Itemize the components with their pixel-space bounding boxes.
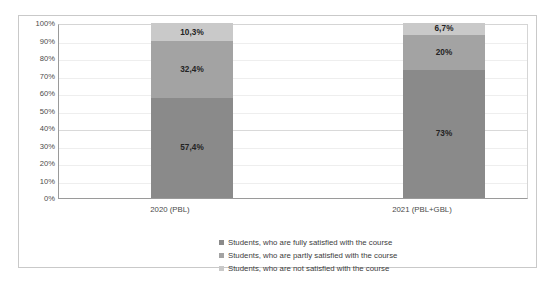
y-tick-label: 40%	[21, 125, 55, 133]
legend-item-fully-satisfied[interactable]: Students, who are fully satisfied with t…	[219, 236, 479, 249]
chart-legend: Students, who are fully satisfied with t…	[219, 236, 479, 275]
y-tick-label: 80%	[21, 55, 55, 63]
y-tick-label: 90%	[21, 38, 55, 46]
chart-frame: 100% 90% 80% 70% 60% 50% 40% 30% 20% 10%…	[18, 15, 537, 268]
y-tick-label: 30%	[21, 143, 55, 151]
x-axis-category-2020: 2020 (PBL)	[110, 205, 230, 214]
legend-swatch-icon	[219, 266, 224, 271]
bar-segment-fully-satisfied[interactable]: 57,4%	[151, 98, 233, 198]
y-tick-label: 100%	[21, 20, 55, 28]
legend-item-not-satisfied[interactable]: Students, who are not satisfied with the…	[219, 262, 479, 275]
bar-segment-partly-satisfied[interactable]: 20%	[403, 35, 485, 70]
bar-segment-label: 32,4%	[180, 65, 204, 74]
plot-area: 10,3% 32,4% 57,4% 6,7% 20% 73%	[58, 24, 528, 199]
y-tick-label: 50%	[21, 108, 55, 116]
legend-label: Students, who are fully satisfied with t…	[228, 238, 392, 247]
bar-segment-label: 57,4%	[180, 143, 204, 152]
y-tick-label: 20%	[21, 160, 55, 168]
y-axis: 100% 90% 80% 70% 60% 50% 40% 30% 20% 10%…	[19, 24, 55, 199]
bar-segment-label: 10,3%	[180, 28, 204, 37]
bar-segment-not-satisfied[interactable]: 6,7%	[403, 23, 485, 35]
y-tick-label: 60%	[21, 90, 55, 98]
bar-segment-label: 20%	[436, 48, 453, 57]
legend-label: Students, who are partly satisfied with …	[228, 251, 397, 260]
x-axis-category-2021: 2021 (PBL+GBL)	[352, 205, 492, 214]
bar-segment-not-satisfied[interactable]: 10,3%	[151, 23, 233, 41]
y-tick-label: 0%	[21, 195, 55, 203]
bar-segment-fully-satisfied[interactable]: 73%	[403, 70, 485, 198]
bar-segment-partly-satisfied[interactable]: 32,4%	[151, 41, 233, 98]
bar-segment-label: 73%	[436, 129, 453, 138]
y-tick-label: 70%	[21, 73, 55, 81]
bar-segment-label: 6,7%	[434, 24, 453, 33]
y-tick-label: 10%	[21, 178, 55, 186]
bar-stack-2020[interactable]: 10,3% 32,4% 57,4%	[151, 23, 233, 198]
legend-label: Students, who are not satisfied with the…	[228, 264, 389, 273]
legend-item-partly-satisfied[interactable]: Students, who are partly satisfied with …	[219, 249, 479, 262]
bar-stack-2021[interactable]: 6,7% 20% 73%	[403, 23, 485, 198]
legend-swatch-icon	[219, 240, 224, 245]
legend-swatch-icon	[219, 253, 224, 258]
